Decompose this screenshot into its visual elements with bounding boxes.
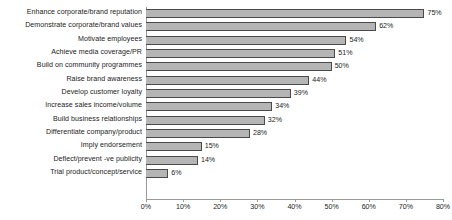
bar bbox=[146, 142, 202, 151]
category-label: Increase sales income/volume bbox=[2, 101, 142, 110]
bar-row: Deflect/prevent -ve publicity14% bbox=[0, 154, 452, 167]
bar bbox=[146, 129, 250, 138]
bar-container: 54% bbox=[146, 36, 346, 45]
x-tick-mark bbox=[332, 199, 333, 202]
bar-value-label: 44% bbox=[312, 76, 326, 85]
bar-row: Enhance corporate/brand reputation75% bbox=[0, 7, 452, 20]
bar bbox=[146, 62, 332, 71]
x-tick-mark bbox=[369, 199, 370, 202]
category-label: Motivate employees bbox=[2, 35, 142, 44]
category-label: Differentiate company/product bbox=[2, 128, 142, 137]
category-label: Develop customer loyalty bbox=[2, 88, 142, 97]
bar-value-label: 39% bbox=[294, 89, 308, 98]
bar-chart: Enhance corporate/brand reputation75%Dem… bbox=[0, 0, 452, 220]
bar-value-label: 34% bbox=[275, 102, 289, 111]
bar-container: 14% bbox=[146, 156, 198, 165]
x-tick-label: 0% bbox=[141, 203, 151, 212]
x-tick-mark bbox=[146, 199, 147, 202]
category-label: Build on community programmes bbox=[2, 61, 142, 70]
category-label: Trial product/concept/service bbox=[2, 168, 142, 177]
bar bbox=[146, 116, 265, 125]
bar-value-label: 14% bbox=[201, 156, 215, 165]
bar-container: 32% bbox=[146, 116, 265, 125]
bar-value-label: 54% bbox=[349, 36, 363, 45]
x-tick-mark bbox=[257, 199, 258, 202]
category-label: Achieve media coverage/PR bbox=[2, 48, 142, 57]
bar-container: 34% bbox=[146, 102, 272, 111]
bar-row: Increase sales income/volume34% bbox=[0, 100, 452, 113]
bar-container: 75% bbox=[146, 9, 424, 18]
bar bbox=[146, 169, 168, 178]
category-label: Demonstrate corporate/brand values bbox=[2, 21, 142, 30]
bar bbox=[146, 102, 272, 111]
x-axis-ticks: 0%10%20%30%40%50%60%70%80% bbox=[0, 199, 452, 220]
bar-row: Raise brand awareness44% bbox=[0, 74, 452, 87]
x-tick-mark bbox=[220, 199, 221, 202]
bar-row: Demonstrate corporate/brand values62% bbox=[0, 20, 452, 33]
bar bbox=[146, 89, 291, 98]
bar-value-label: 50% bbox=[335, 62, 349, 71]
bar-row: Build on community programmes50% bbox=[0, 60, 452, 73]
category-label: Build business relationships bbox=[2, 115, 142, 124]
category-label: Deflect/prevent -ve publicity bbox=[2, 155, 142, 164]
bar-row: Motivate employees54% bbox=[0, 34, 452, 47]
bar-row: Trial product/concept/service6% bbox=[0, 167, 452, 180]
bar-value-label: 51% bbox=[338, 49, 352, 58]
x-tick-label: 40% bbox=[287, 203, 301, 212]
bar-container: 50% bbox=[146, 62, 332, 71]
bar-container: 51% bbox=[146, 49, 335, 58]
bar-value-label: 75% bbox=[427, 9, 441, 18]
bar-row: Build business relationships32% bbox=[0, 114, 452, 127]
x-tick-mark bbox=[406, 199, 407, 202]
x-tick-label: 60% bbox=[362, 203, 376, 212]
x-tick-label: 50% bbox=[325, 203, 339, 212]
x-tick-mark bbox=[443, 199, 444, 202]
bar-row: Develop customer loyalty39% bbox=[0, 87, 452, 100]
bar-row: Achieve media coverage/PR51% bbox=[0, 47, 452, 60]
bar bbox=[146, 156, 198, 165]
bar-row: Imply endorsement15% bbox=[0, 140, 452, 153]
x-tick-label: 30% bbox=[250, 203, 264, 212]
bar-value-label: 62% bbox=[379, 22, 393, 31]
bar-value-label: 32% bbox=[268, 116, 282, 125]
bar bbox=[146, 76, 309, 85]
category-label: Enhance corporate/brand reputation bbox=[2, 8, 142, 17]
bar bbox=[146, 49, 335, 58]
bar-container: 62% bbox=[146, 22, 376, 31]
category-label: Imply endorsement bbox=[2, 141, 142, 150]
bar bbox=[146, 9, 424, 18]
bar bbox=[146, 36, 346, 45]
x-tick-label: 20% bbox=[213, 203, 227, 212]
category-label: Raise brand awareness bbox=[2, 75, 142, 84]
bar-container: 28% bbox=[146, 129, 250, 138]
bar-container: 44% bbox=[146, 76, 309, 85]
x-tick-mark bbox=[183, 199, 184, 202]
bar-container: 6% bbox=[146, 169, 168, 178]
x-tick-label: 10% bbox=[176, 203, 190, 212]
bar-rows: Enhance corporate/brand reputation75%Dem… bbox=[0, 7, 452, 180]
bar-value-label: 15% bbox=[205, 142, 219, 151]
bar-row: Differentiate company/product28% bbox=[0, 127, 452, 140]
x-tick-mark bbox=[295, 199, 296, 202]
bar-value-label: 28% bbox=[253, 129, 267, 138]
bar-container: 15% bbox=[146, 142, 202, 151]
x-tick-label: 80% bbox=[436, 203, 450, 212]
bar bbox=[146, 22, 376, 31]
x-tick-label: 70% bbox=[399, 203, 413, 212]
bar-value-label: 6% bbox=[171, 169, 181, 178]
bar-container: 39% bbox=[146, 89, 291, 98]
